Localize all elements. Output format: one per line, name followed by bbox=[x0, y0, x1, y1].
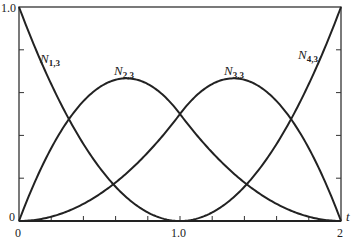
basis-function-chart: 1.0 0 0 1.0 2 t N1,3 N2,3 N3,3 N4,3 bbox=[0, 0, 356, 243]
axis-ticks bbox=[19, 50, 341, 221]
label-n13: N1,3 bbox=[39, 51, 60, 68]
label-n33: N3,3 bbox=[223, 63, 244, 80]
curve-n23 bbox=[19, 78, 341, 221]
y-tick-top: 1.0 bbox=[1, 1, 16, 15]
curves bbox=[19, 7, 341, 221]
label-n43: N4,3 bbox=[297, 47, 318, 64]
x-tick-right: 2 bbox=[337, 226, 343, 240]
x-axis-label: t bbox=[346, 209, 350, 224]
label-n23: N2,3 bbox=[113, 63, 134, 80]
y-tick-bottom: 0 bbox=[9, 210, 15, 224]
curve-n33 bbox=[19, 78, 341, 221]
x-tick-left: 0 bbox=[15, 226, 21, 240]
x-tick-mid: 1.0 bbox=[171, 226, 186, 240]
